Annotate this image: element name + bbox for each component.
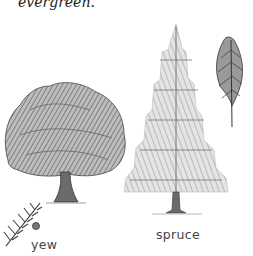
yew-tree-icon [5, 83, 125, 203]
spruce-shoot-icon [217, 37, 243, 127]
spruce-label: spruce [156, 227, 200, 242]
spruce-tree-icon [124, 24, 228, 214]
illustration [0, 0, 253, 256]
yew-label: yew [31, 237, 57, 252]
